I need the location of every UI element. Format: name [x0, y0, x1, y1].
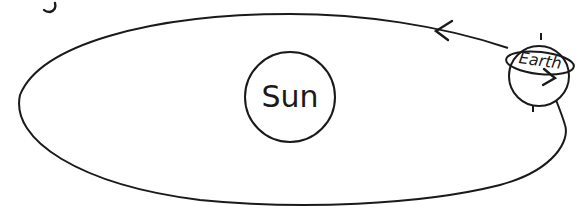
cropped-title-glyph: [44, 3, 55, 12]
orbit-diagram: Sun Earth: [0, 0, 585, 213]
sun-label: Sun: [261, 79, 318, 114]
